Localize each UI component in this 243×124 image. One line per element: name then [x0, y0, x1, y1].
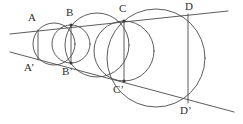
point-label-B: B	[66, 7, 73, 18]
point-label-D-prime: D’	[180, 105, 192, 116]
point-label-D: D	[185, 1, 193, 12]
figure-canvas	[0, 0, 243, 124]
geometry-figure: A A’ B B’ C C’ D D’	[0, 0, 243, 124]
point-label-C-prime: C’	[113, 84, 124, 95]
upper-line	[10, 11, 228, 34]
point-label-B-prime: B’	[62, 66, 73, 77]
point-label-A: A	[28, 12, 36, 23]
point-label-C: C	[119, 3, 126, 14]
lower-line	[10, 52, 234, 112]
point-C-marker	[122, 19, 125, 22]
point-B-marker	[70, 24, 73, 27]
point-label-A-prime: A’	[24, 62, 34, 73]
